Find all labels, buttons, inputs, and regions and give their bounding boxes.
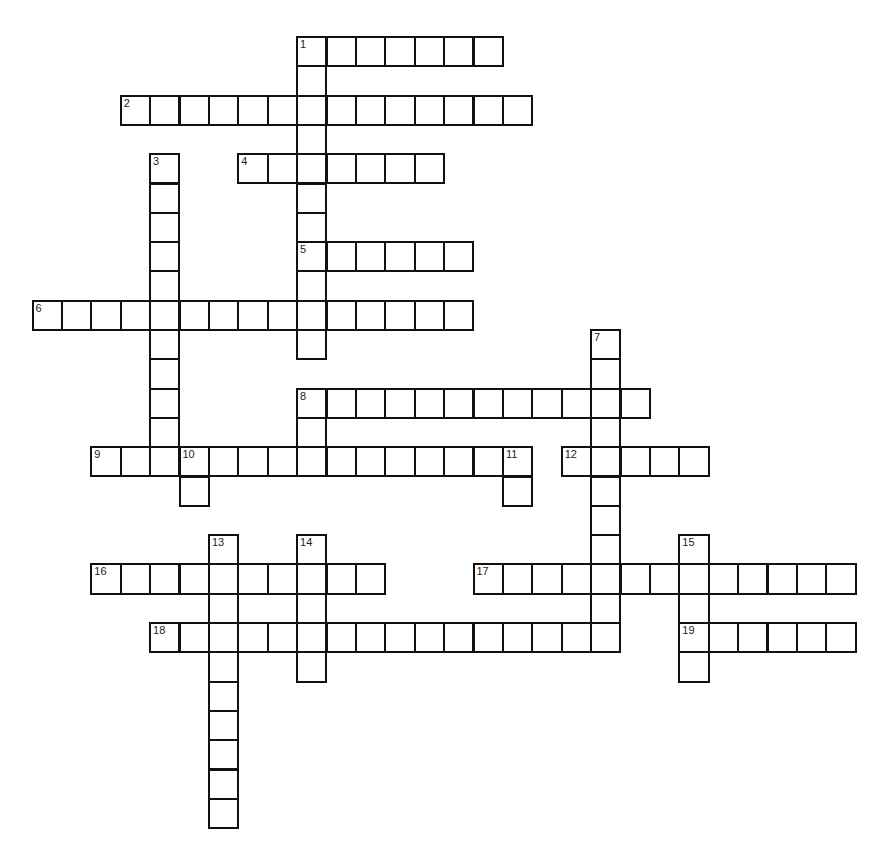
crossword-cell[interactable] bbox=[296, 270, 327, 301]
crossword-cell[interactable] bbox=[384, 622, 415, 653]
crossword-cell[interactable] bbox=[267, 563, 298, 594]
crossword-cell[interactable] bbox=[296, 563, 327, 594]
crossword-cell[interactable] bbox=[149, 417, 180, 448]
crossword-cell[interactable] bbox=[414, 446, 445, 477]
crossword-cell[interactable] bbox=[590, 505, 621, 536]
crossword-cell[interactable] bbox=[355, 388, 386, 419]
crossword-cell[interactable] bbox=[237, 300, 268, 331]
crossword-cell[interactable]: 12 bbox=[561, 446, 592, 477]
crossword-cell[interactable] bbox=[120, 446, 151, 477]
crossword-cell[interactable] bbox=[531, 388, 562, 419]
crossword-cell[interactable] bbox=[414, 36, 445, 67]
crossword-cell[interactable] bbox=[296, 300, 327, 331]
crossword-cell[interactable]: 13 bbox=[208, 534, 239, 565]
crossword-cell[interactable] bbox=[414, 622, 445, 653]
crossword-cell[interactable] bbox=[502, 476, 533, 507]
crossword-cell[interactable] bbox=[443, 446, 474, 477]
crossword-cell[interactable] bbox=[208, 563, 239, 594]
crossword-cell[interactable] bbox=[296, 183, 327, 214]
crossword-cell[interactable] bbox=[473, 388, 504, 419]
crossword-cell[interactable] bbox=[208, 681, 239, 712]
crossword-cell[interactable] bbox=[414, 300, 445, 331]
crossword-cell[interactable] bbox=[149, 358, 180, 389]
crossword-cell[interactable]: 11 bbox=[502, 446, 533, 477]
crossword-cell[interactable]: 7 bbox=[590, 329, 621, 360]
crossword-cell[interactable] bbox=[179, 95, 210, 126]
crossword-cell[interactable] bbox=[208, 446, 239, 477]
crossword-cell[interactable] bbox=[267, 446, 298, 477]
crossword-cell[interactable] bbox=[737, 563, 768, 594]
crossword-cell[interactable]: 4 bbox=[237, 153, 268, 184]
crossword-cell[interactable] bbox=[678, 593, 709, 624]
crossword-cell[interactable] bbox=[414, 95, 445, 126]
crossword-cell[interactable] bbox=[326, 241, 357, 272]
crossword-cell[interactable] bbox=[590, 417, 621, 448]
crossword-cell[interactable] bbox=[443, 388, 474, 419]
crossword-cell[interactable] bbox=[825, 622, 856, 653]
crossword-cell[interactable] bbox=[708, 563, 739, 594]
crossword-cell[interactable] bbox=[208, 739, 239, 770]
crossword-cell[interactable] bbox=[149, 241, 180, 272]
crossword-cell[interactable] bbox=[237, 95, 268, 126]
crossword-cell[interactable] bbox=[326, 36, 357, 67]
crossword-cell[interactable] bbox=[737, 622, 768, 653]
crossword-cell[interactable] bbox=[237, 563, 268, 594]
crossword-cell[interactable] bbox=[179, 476, 210, 507]
crossword-cell[interactable]: 5 bbox=[296, 241, 327, 272]
crossword-cell[interactable] bbox=[149, 95, 180, 126]
crossword-cell[interactable] bbox=[326, 300, 357, 331]
crossword-cell[interactable] bbox=[502, 95, 533, 126]
crossword-cell[interactable] bbox=[443, 95, 474, 126]
crossword-cell[interactable] bbox=[531, 622, 562, 653]
crossword-cell[interactable] bbox=[473, 36, 504, 67]
crossword-cell[interactable] bbox=[443, 622, 474, 653]
crossword-cell[interactable] bbox=[384, 300, 415, 331]
crossword-cell[interactable] bbox=[326, 622, 357, 653]
crossword-cell[interactable] bbox=[443, 300, 474, 331]
crossword-cell[interactable] bbox=[326, 153, 357, 184]
crossword-cell[interactable] bbox=[678, 651, 709, 682]
crossword-cell[interactable] bbox=[149, 270, 180, 301]
crossword-cell[interactable] bbox=[267, 95, 298, 126]
crossword-cell[interactable] bbox=[414, 388, 445, 419]
crossword-cell[interactable] bbox=[149, 329, 180, 360]
crossword-cell[interactable] bbox=[149, 183, 180, 214]
crossword-cell[interactable] bbox=[502, 622, 533, 653]
crossword-cell[interactable] bbox=[208, 798, 239, 829]
crossword-cell[interactable] bbox=[384, 153, 415, 184]
crossword-cell[interactable]: 17 bbox=[473, 563, 504, 594]
crossword-cell[interactable] bbox=[237, 622, 268, 653]
crossword-cell[interactable] bbox=[473, 95, 504, 126]
crossword-cell[interactable] bbox=[590, 593, 621, 624]
crossword-cell[interactable] bbox=[208, 300, 239, 331]
crossword-cell[interactable] bbox=[355, 300, 386, 331]
crossword-cell[interactable]: 8 bbox=[296, 388, 327, 419]
crossword-cell[interactable] bbox=[296, 124, 327, 155]
crossword-cell[interactable] bbox=[296, 622, 327, 653]
crossword-cell[interactable] bbox=[649, 446, 680, 477]
crossword-cell[interactable] bbox=[414, 153, 445, 184]
crossword-cell[interactable] bbox=[796, 563, 827, 594]
crossword-cell[interactable] bbox=[326, 446, 357, 477]
crossword-cell[interactable] bbox=[179, 563, 210, 594]
crossword-cell[interactable] bbox=[355, 153, 386, 184]
crossword-cell[interactable] bbox=[149, 212, 180, 243]
crossword-cell[interactable] bbox=[355, 36, 386, 67]
crossword-cell[interactable] bbox=[708, 622, 739, 653]
crossword-cell[interactable] bbox=[620, 446, 651, 477]
crossword-cell[interactable] bbox=[473, 622, 504, 653]
crossword-cell[interactable] bbox=[296, 65, 327, 96]
crossword-cell[interactable] bbox=[384, 36, 415, 67]
crossword-cell[interactable] bbox=[649, 563, 680, 594]
crossword-cell[interactable] bbox=[208, 622, 239, 653]
crossword-cell[interactable] bbox=[561, 388, 592, 419]
crossword-cell[interactable] bbox=[473, 446, 504, 477]
crossword-cell[interactable] bbox=[620, 388, 651, 419]
crossword-cell[interactable] bbox=[296, 446, 327, 477]
crossword-cell[interactable] bbox=[326, 388, 357, 419]
crossword-cell[interactable] bbox=[355, 241, 386, 272]
crossword-cell[interactable] bbox=[590, 388, 621, 419]
crossword-cell[interactable] bbox=[355, 95, 386, 126]
crossword-cell[interactable] bbox=[590, 622, 621, 653]
crossword-cell[interactable] bbox=[384, 95, 415, 126]
